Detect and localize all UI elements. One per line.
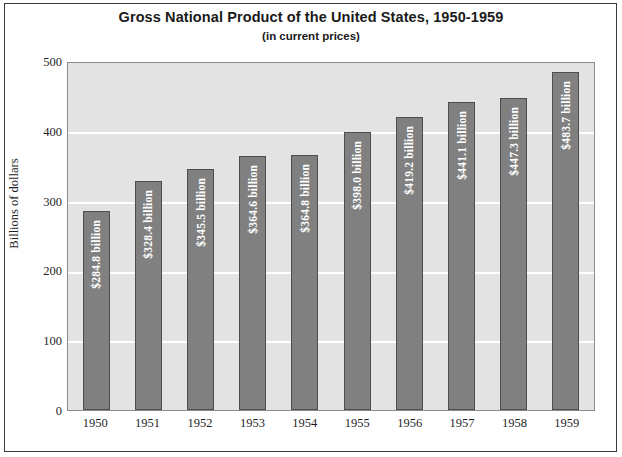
- bar-value-label: $328.4 billion: [142, 190, 154, 259]
- bar-slot: $345.5 billion: [174, 63, 226, 410]
- y-tick-100: 100: [18, 334, 62, 349]
- bar-1959[interactable]: $483.7 billion: [552, 72, 579, 410]
- x-tick-1958: 1958: [488, 416, 540, 431]
- x-tick-1954: 1954: [279, 416, 331, 431]
- y-tick-0: 0: [18, 404, 62, 419]
- x-axis-labels: 1950195119521953195419551956195719581959: [67, 416, 595, 431]
- bar-slot: $364.6 billion: [227, 63, 279, 410]
- bar-slot: $328.4 billion: [122, 63, 174, 410]
- plot-area: $284.8 billion$328.4 billion$345.5 billi…: [67, 62, 595, 411]
- chart-subtitle: (in current prices): [0, 28, 622, 44]
- y-axis-ticks: 0 100 200 300 400 500: [12, 62, 62, 411]
- bar-1951[interactable]: $328.4 billion: [135, 181, 162, 410]
- bar-slot: $284.8 billion: [70, 63, 122, 410]
- x-tick-1959: 1959: [541, 416, 593, 431]
- bar-slot: $364.8 billion: [279, 63, 331, 410]
- bar-value-label: $364.8 billion: [299, 164, 311, 233]
- y-tick-200: 200: [18, 264, 62, 279]
- chart-figure: Gross National Product of the United Sta…: [0, 0, 622, 457]
- bar-value-label: $345.5 billion: [195, 178, 207, 247]
- y-tick-500: 500: [18, 55, 62, 70]
- bar-slot: $419.2 billion: [383, 63, 435, 410]
- bar-1956[interactable]: $419.2 billion: [396, 117, 423, 410]
- bar-value-label: $419.2 billion: [403, 126, 415, 195]
- bar-slot: $483.7 billion: [540, 63, 592, 410]
- bar-value-label: $364.6 billion: [247, 165, 259, 234]
- bar-slot: $398.0 billion: [331, 63, 383, 410]
- bar-1955[interactable]: $398.0 billion: [344, 132, 371, 410]
- bar-1958[interactable]: $447.3 billion: [500, 98, 527, 410]
- y-tick-300: 300: [18, 194, 62, 209]
- bar-value-label: $398.0 billion: [351, 141, 363, 210]
- bar-value-label: $483.7 billion: [560, 81, 572, 150]
- bar-1954[interactable]: $364.8 billion: [291, 155, 318, 410]
- bar-1957[interactable]: $441.1 billion: [448, 102, 475, 410]
- bar-slot: $447.3 billion: [488, 63, 540, 410]
- bar-value-label: $447.3 billion: [508, 107, 520, 176]
- x-tick-1952: 1952: [174, 416, 226, 431]
- bars-layer: $284.8 billion$328.4 billion$345.5 billi…: [68, 63, 594, 410]
- bar-slot: $441.1 billion: [435, 63, 487, 410]
- bar-1953[interactable]: $364.6 billion: [239, 156, 266, 410]
- bar-value-label: $284.8 billion: [90, 220, 102, 289]
- x-tick-1956: 1956: [383, 416, 435, 431]
- bar-1952[interactable]: $345.5 billion: [187, 169, 214, 410]
- bar-1950[interactable]: $284.8 billion: [83, 211, 110, 410]
- y-tick-400: 400: [18, 124, 62, 139]
- title-block: Gross National Product of the United Sta…: [0, 9, 622, 44]
- bar-value-label: $441.1 billion: [456, 111, 468, 180]
- chart-title: Gross National Product of the United Sta…: [0, 9, 622, 26]
- x-tick-1950: 1950: [69, 416, 121, 431]
- x-tick-1951: 1951: [121, 416, 173, 431]
- x-tick-1957: 1957: [436, 416, 488, 431]
- x-tick-1955: 1955: [331, 416, 383, 431]
- x-tick-1953: 1953: [226, 416, 278, 431]
